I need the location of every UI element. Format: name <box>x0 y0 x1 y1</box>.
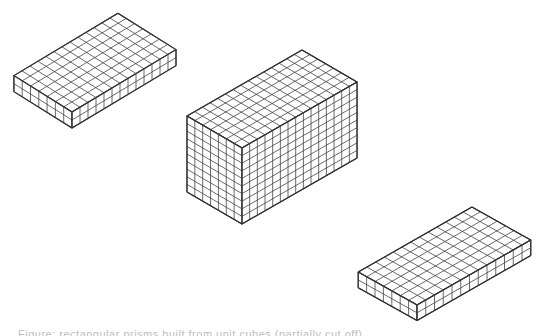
prism-diagram <box>0 0 546 336</box>
flat-prism-bottom-right <box>358 207 531 321</box>
tall-prism-center <box>187 50 357 224</box>
figure-caption: Figure: rectangular prisms built from un… <box>18 329 362 336</box>
flat-prism-top-left <box>14 13 176 128</box>
